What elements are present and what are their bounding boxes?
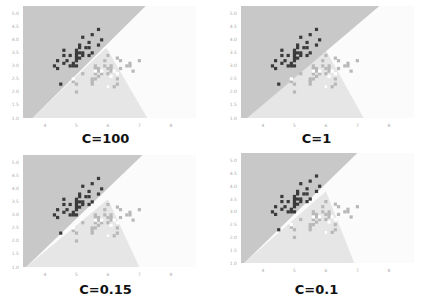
- data-point: [318, 215, 321, 218]
- data-point: [87, 46, 90, 49]
- data-point: [337, 59, 340, 62]
- data-point: [56, 208, 59, 211]
- y-tick-label: 2.0: [12, 89, 19, 94]
- data-point: [293, 236, 296, 239]
- data-point: [293, 64, 296, 67]
- data-point: [109, 64, 112, 67]
- y-tick-label: 5.0: [12, 160, 19, 165]
- y-tick-label: 2.5: [230, 222, 237, 227]
- data-point: [302, 192, 305, 195]
- data-point: [109, 224, 112, 227]
- y-tick-label: 4.5: [12, 24, 19, 29]
- data-point: [84, 195, 87, 198]
- x-tick-label: 6: [106, 272, 109, 277]
- data-point: [299, 72, 302, 75]
- data-point: [312, 223, 315, 226]
- data-point: [290, 77, 293, 80]
- data-point: [334, 228, 337, 231]
- x-tick-label: 5: [75, 123, 78, 128]
- data-point: [72, 211, 75, 214]
- data-point: [312, 215, 315, 218]
- data-point: [324, 218, 327, 221]
- data-point: [91, 200, 94, 203]
- data-point: [103, 208, 106, 211]
- data-point: [324, 67, 327, 70]
- data-point: [280, 195, 283, 198]
- data-point: [324, 72, 327, 75]
- data-point: [84, 46, 87, 49]
- data-point: [327, 220, 330, 223]
- data-point: [128, 62, 131, 65]
- data-point: [346, 62, 349, 65]
- data-point: [305, 200, 308, 203]
- y-tick-label: 3.5: [12, 199, 19, 204]
- data-point: [87, 190, 90, 193]
- data-point: [334, 223, 337, 226]
- data-point: [138, 59, 141, 62]
- data-point: [334, 218, 337, 221]
- data-point: [293, 90, 296, 93]
- data-point: [296, 51, 299, 54]
- data-point: [62, 62, 65, 65]
- data-point: [296, 43, 299, 46]
- y-tick-label: 1.5: [12, 102, 19, 107]
- data-point: [106, 216, 109, 219]
- x-tick-label: 7: [138, 272, 141, 277]
- x-tick-label: 6: [324, 268, 327, 273]
- data-point: [113, 85, 116, 88]
- data-point: [81, 221, 84, 224]
- panel-caption: C=0.1: [211, 282, 422, 297]
- y-tick-label: 1.0: [12, 265, 19, 270]
- x-tick-label: 8: [169, 123, 172, 128]
- data-point: [116, 205, 119, 208]
- x-tick-label: 6: [106, 123, 109, 128]
- data-point: [109, 213, 112, 216]
- data-point: [327, 64, 330, 67]
- data-point: [349, 70, 352, 73]
- x-tick-label: 7: [356, 123, 359, 128]
- y-tick-label: 2.5: [230, 76, 237, 81]
- data-point: [331, 231, 334, 234]
- data-point: [94, 226, 97, 229]
- data-point: [287, 64, 290, 67]
- data-point: [97, 224, 100, 227]
- data-point: [280, 200, 283, 203]
- data-point: [106, 67, 109, 70]
- y-tick-label: 1.5: [230, 102, 237, 107]
- data-point: [75, 64, 78, 67]
- data-point: [131, 70, 134, 73]
- panel-caption: C=100: [0, 131, 211, 146]
- data-point: [305, 192, 308, 195]
- figure-grid: 1.01.52.02.53.03.54.04.55.045678 C=100 1…: [0, 0, 422, 305]
- panel-c01: 1.01.52.02.53.03.54.04.55.045678 C=0.1: [211, 152, 422, 305]
- data-point: [271, 64, 274, 67]
- x-tick-label: 7: [356, 268, 359, 273]
- data-point: [75, 213, 78, 216]
- y-tick-label: 2.0: [12, 238, 19, 243]
- data-point: [113, 219, 116, 222]
- data-point: [299, 182, 302, 185]
- data-point: [309, 223, 312, 226]
- data-point: [94, 219, 97, 222]
- data-point: [327, 210, 330, 213]
- data-point: [75, 83, 78, 86]
- data-point: [302, 46, 305, 49]
- data-point: [116, 56, 119, 59]
- data-point: [321, 210, 324, 213]
- data-point: [106, 221, 109, 224]
- data-point: [296, 203, 299, 206]
- data-point: [283, 205, 286, 208]
- data-point: [290, 208, 293, 211]
- data-point: [321, 205, 324, 208]
- data-point: [78, 192, 81, 195]
- data-point: [62, 203, 65, 206]
- scatter-plot: 1.01.52.02.53.03.54.04.55.045678: [211, 0, 422, 152]
- data-point: [119, 208, 122, 211]
- data-point: [280, 208, 283, 211]
- y-tick-label: 5.0: [230, 158, 237, 163]
- data-point: [56, 216, 59, 219]
- data-point: [305, 187, 308, 190]
- x-tick-label: 4: [44, 272, 47, 277]
- data-point: [69, 203, 72, 206]
- data-point: [94, 213, 97, 216]
